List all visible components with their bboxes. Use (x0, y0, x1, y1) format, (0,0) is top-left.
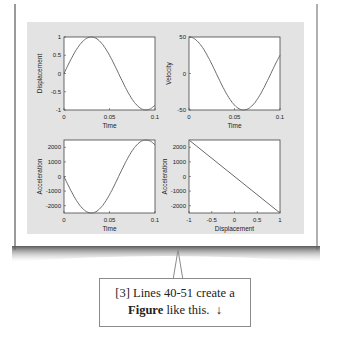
callout-line2: Figure like this. ↓ (100, 302, 250, 319)
callout-line1: [3] Lines 40-51 create a (100, 285, 250, 302)
callout-box: [3] Lines 40-51 create a Figure like thi… (99, 278, 251, 327)
down-arrow-icon: ↓ (216, 303, 222, 317)
callout-bold-word: Figure (128, 303, 163, 317)
callout-line2-text: like this. (163, 303, 209, 317)
